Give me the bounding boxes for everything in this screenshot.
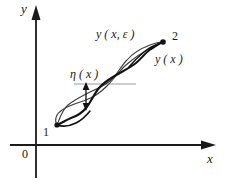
- endpoint-dot-2: [160, 39, 166, 45]
- y-axis: [32, 5, 41, 178]
- endpoint-label-2: 2: [172, 30, 178, 42]
- endpoint-label-1: 1: [43, 126, 49, 138]
- origin-label: 0: [22, 148, 28, 160]
- varied-path-label: y ( x, ε ): [96, 28, 134, 40]
- x-axis-label: x: [207, 152, 213, 165]
- variational-calculus-figure: y x 0 1 2 y ( x, ε ) y ( x ) η ( x ): [0, 0, 227, 184]
- variation-arrow: [83, 82, 90, 111]
- curve-varied-path-lobe: [56, 42, 163, 125]
- x-axis: [10, 141, 216, 150]
- y-axis-label: y: [21, 2, 27, 15]
- extremal-path-label: y ( x ): [155, 53, 183, 65]
- endpoint-dot-1: [54, 122, 59, 127]
- variation-function-label: η ( x ): [70, 68, 98, 80]
